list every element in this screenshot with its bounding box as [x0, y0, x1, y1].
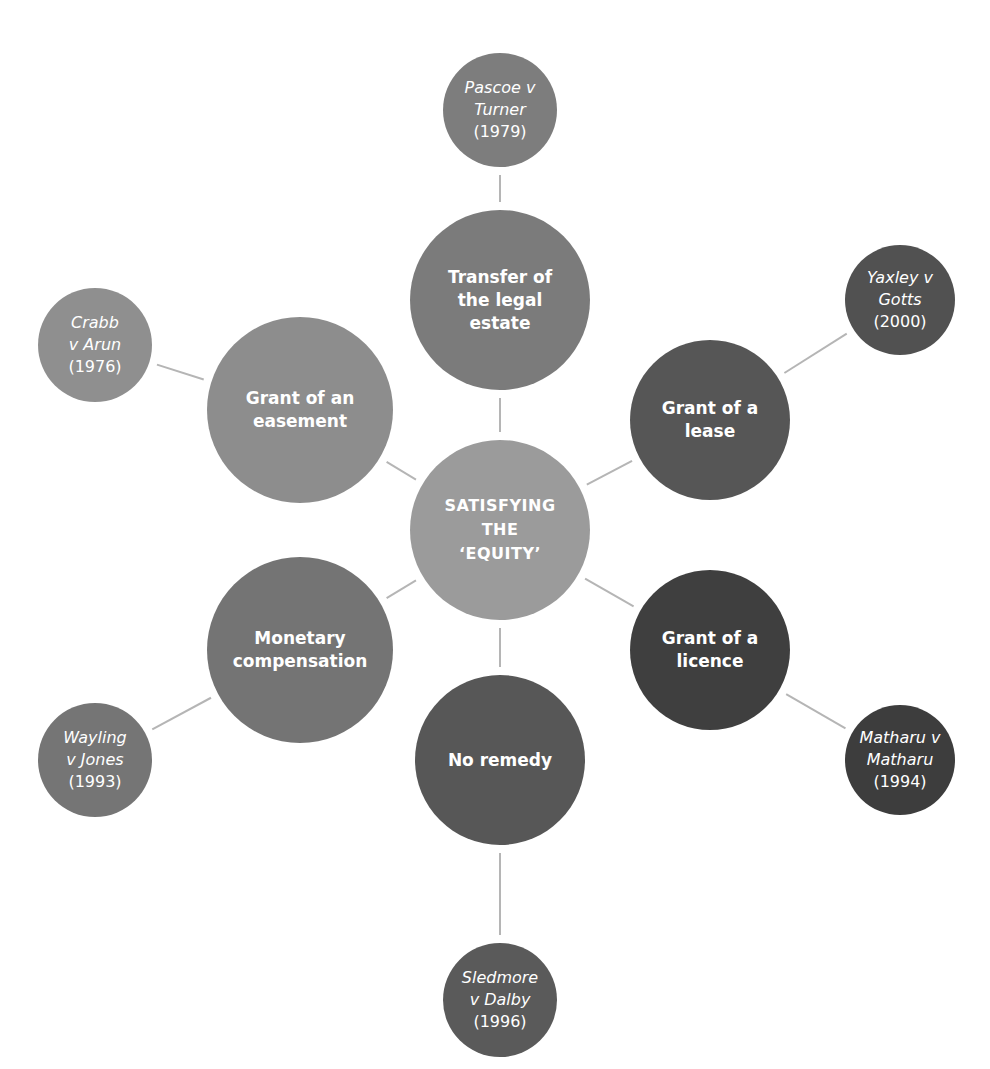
case-name: Matharu v Matharu — [859, 727, 940, 771]
case-year: (1979) — [465, 121, 536, 143]
remedy-label: Grant of a licence — [662, 627, 758, 673]
case-name: Crabb v Arun — [68, 312, 121, 356]
remedy-node-grant-of-easement: Grant of an easement — [207, 317, 393, 503]
center-node-satisfying-the-equity: SATISFYING THE ‘EQUITY’ — [410, 440, 590, 620]
case-name: Sledmore v Dalby — [462, 967, 538, 1011]
case-year: (1996) — [462, 1011, 538, 1033]
center-label: SATISFYING THE ‘EQUITY’ — [444, 494, 555, 566]
case-year: (2000) — [867, 311, 933, 333]
case-node-sledmore-v-dalby: Sledmore v Dalby(1996) — [443, 943, 557, 1057]
remedy-label: Grant of an easement — [246, 387, 355, 433]
case-year: (1976) — [68, 356, 121, 378]
remedy-node-no-remedy: No remedy — [415, 675, 585, 845]
case-name: Yaxley v Gotts — [867, 267, 933, 311]
remedy-node-grant-of-licence: Grant of a licence — [630, 570, 790, 730]
case-name: Pascoe v Turner — [465, 77, 536, 121]
remedy-label: Transfer of the legal estate — [448, 266, 552, 335]
remedy-label: Grant of a lease — [662, 397, 758, 443]
case-node-wayling-v-jones: Wayling v Jones(1993) — [38, 703, 152, 817]
remedy-node-grant-of-lease: Grant of a lease — [630, 340, 790, 500]
remedy-label: Monetary compensation — [233, 627, 368, 673]
remedy-node-transfer-of-legal-estate: Transfer of the legal estate — [410, 210, 590, 390]
case-year: (1994) — [859, 771, 940, 793]
case-node-yaxley-v-gotts: Yaxley v Gotts(2000) — [845, 245, 955, 355]
case-node-matharu-v-matharu: Matharu v Matharu(1994) — [845, 705, 955, 815]
case-name: Wayling v Jones — [63, 727, 126, 771]
case-year: (1993) — [63, 771, 126, 793]
remedy-label: No remedy — [448, 749, 552, 772]
case-node-crabb-v-arun: Crabb v Arun(1976) — [38, 288, 152, 402]
case-node-pascoe-v-turner: Pascoe v Turner(1979) — [443, 53, 557, 167]
remedy-node-monetary-compensation: Monetary compensation — [207, 557, 393, 743]
